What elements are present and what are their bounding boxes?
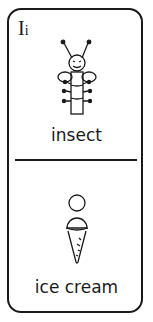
uppercase-letter: I [18,17,25,39]
word-insect: insect [0,125,153,145]
lowercase-letter: i [25,23,29,38]
letter-heading: Ii [18,18,29,38]
ice-cream-icon [60,190,94,270]
divider [15,159,137,161]
word-ice-cream: ice cream [0,277,153,297]
insect-icon [52,38,102,120]
